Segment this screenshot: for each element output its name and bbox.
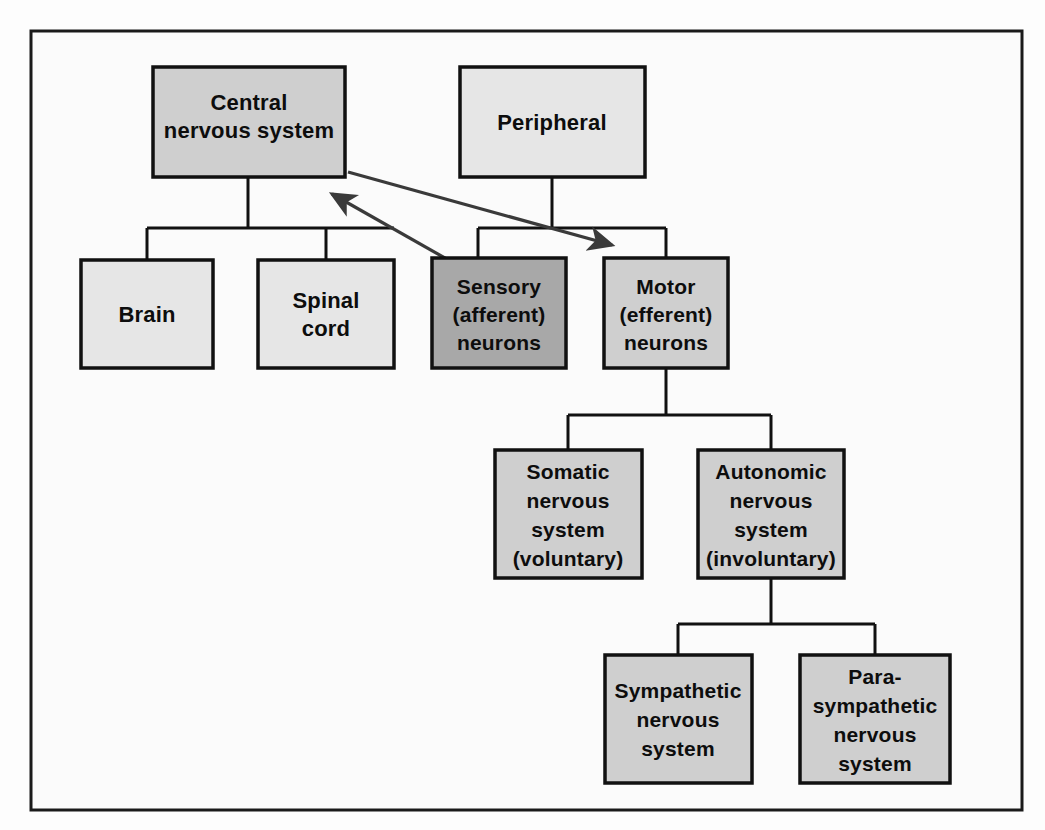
node-central-label-line1: Central: [210, 90, 287, 115]
node-autonomic-nervous-system[interactable]: Autonomic nervous system (involuntary): [698, 450, 844, 578]
node-sensory-label-line1: Sensory: [457, 275, 541, 298]
node-somatic-label-line3: system: [531, 518, 605, 541]
node-parasympathetic-nervous-system[interactable]: Para- sympathetic nervous system: [800, 655, 950, 783]
node-brain-label-line1: Brain: [118, 302, 175, 327]
node-sympathetic-nervous-system[interactable]: Sympathetic nervous system: [605, 655, 752, 783]
node-somatic-label-line1: Somatic: [526, 460, 609, 483]
node-central-nervous-system[interactable]: Central nervous system: [153, 67, 345, 177]
node-spinal-cord-label-line1: Spinal: [292, 288, 359, 313]
node-sensory-label-line3: neurons: [457, 331, 541, 354]
node-autonomic-label-line3: system: [734, 518, 808, 541]
node-autonomic-label-line1: Autonomic: [715, 460, 827, 483]
node-parasympathetic-label-line2: sympathetic: [813, 694, 938, 717]
node-peripheral-label-line1: Peripheral: [497, 110, 607, 135]
node-central-label-line2: nervous system: [164, 118, 334, 143]
node-somatic-label-line4: (voluntary): [513, 547, 624, 570]
node-sympathetic-label-line1: Sympathetic: [614, 679, 741, 702]
node-peripheral[interactable]: Peripheral: [460, 67, 645, 177]
nervous-system-diagram: Central nervous system Peripheral Brain …: [0, 0, 1045, 830]
node-motor-label-line2: (efferent): [619, 303, 712, 326]
node-spinal-cord-box[interactable]: [258, 260, 394, 368]
node-autonomic-label-line2: nervous: [729, 489, 812, 512]
node-parasympathetic-label-line3: nervous: [833, 723, 916, 746]
node-motor-neurons[interactable]: Motor (efferent) neurons: [604, 258, 728, 368]
node-autonomic-label-line4: (involuntary): [706, 547, 836, 570]
node-somatic-nervous-system[interactable]: Somatic nervous system (voluntary): [495, 450, 642, 578]
node-sympathetic-label-line3: system: [641, 737, 715, 760]
node-sensory-label-line2: (afferent): [452, 303, 545, 326]
node-motor-label-line3: neurons: [624, 331, 708, 354]
node-spinal-cord-label-line2: cord: [302, 316, 350, 341]
node-motor-label-line1: Motor: [636, 275, 695, 298]
node-sympathetic-label-line2: nervous: [636, 708, 719, 731]
diagram-canvas: Central nervous system Peripheral Brain …: [0, 0, 1045, 830]
node-spinal-cord[interactable]: Spinal cord: [258, 260, 394, 368]
node-parasympathetic-label-line4: system: [838, 752, 912, 775]
node-brain[interactable]: Brain: [81, 260, 213, 368]
node-somatic-label-line2: nervous: [526, 489, 609, 512]
node-sensory-neurons[interactable]: Sensory (afferent) neurons: [432, 258, 566, 368]
node-parasympathetic-label-line1: Para-: [848, 665, 902, 688]
